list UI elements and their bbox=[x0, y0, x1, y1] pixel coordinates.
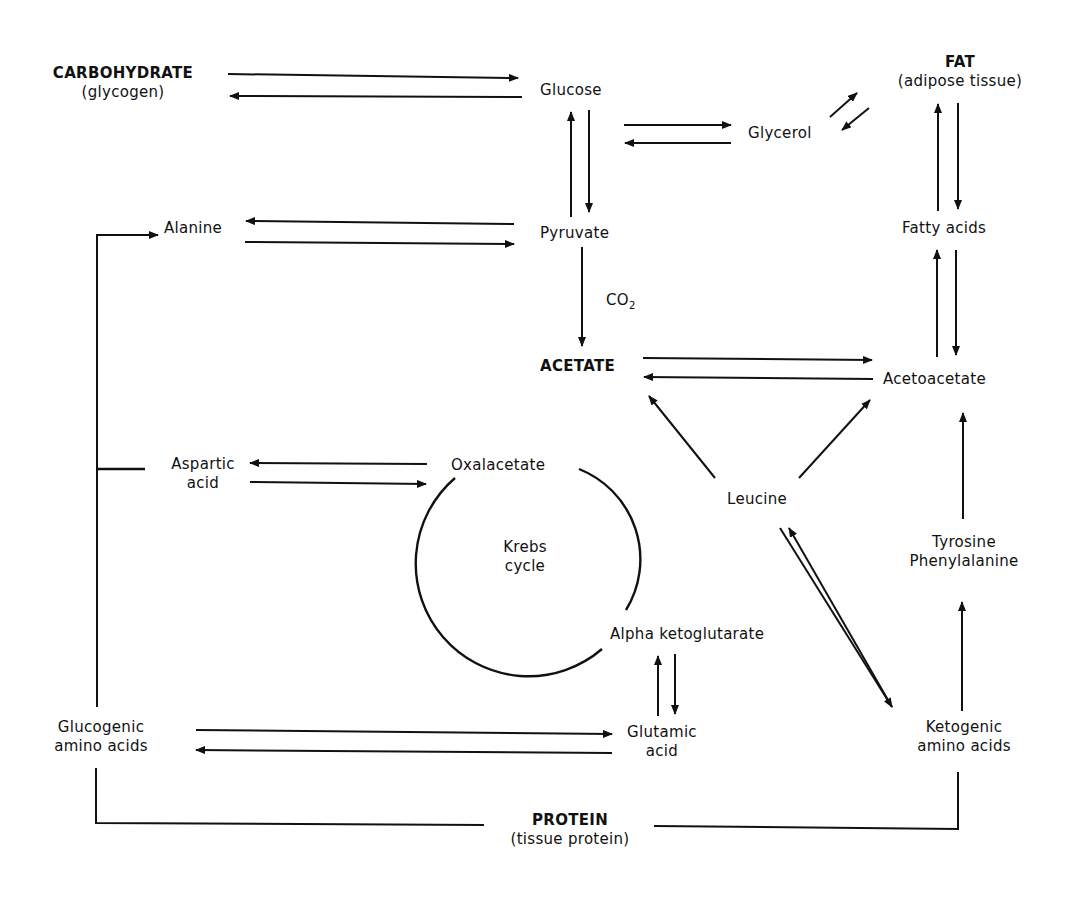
node-fat-subtitle: (adipose tissue) bbox=[880, 72, 1040, 91]
node-leucine: Leucine bbox=[727, 490, 787, 509]
label-co2: CO2 bbox=[606, 291, 636, 315]
node-protein: PROTEIN (tissue protein) bbox=[492, 811, 648, 849]
node-tyrosine-line2: Phenylalanine bbox=[886, 552, 1042, 571]
node-carbohydrate-title: CARBOHYDRATE bbox=[53, 64, 193, 82]
node-glucogenic-line1: Glucogenic bbox=[40, 718, 162, 737]
node-acetoacetate: Acetoacetate bbox=[883, 370, 986, 389]
connector-protein-to-glucogenic bbox=[96, 768, 484, 825]
node-tyrosine-line1: Tyrosine bbox=[886, 533, 1042, 552]
node-alanine: Alanine bbox=[164, 219, 222, 238]
node-tyrosine-phenylalanine: Tyrosine Phenylalanine bbox=[886, 533, 1042, 571]
node-glutamic-acid: Glutamic acid bbox=[622, 723, 702, 761]
node-protein-subtitle: (tissue protein) bbox=[492, 830, 648, 849]
arrow-alanine-to-pyruvate bbox=[245, 242, 514, 244]
arrow-ketogenic-to-leucine bbox=[789, 528, 892, 707]
arrow-carbohydrate-to-glucose bbox=[228, 74, 518, 78]
label-co2-text: CO bbox=[606, 291, 629, 309]
node-carbohydrate: CARBOHYDRATE (glycogen) bbox=[40, 64, 206, 102]
node-ketogenic-line1: Ketogenic bbox=[902, 718, 1026, 737]
arrow-aspartic-to-oxalacetate bbox=[250, 482, 426, 484]
node-acetate: ACETATE bbox=[540, 357, 615, 376]
arrow-glutamic-to-glucogenic bbox=[196, 750, 612, 753]
node-krebs-line2: cycle bbox=[490, 557, 560, 576]
node-aspartic-line1: Aspartic bbox=[158, 455, 248, 474]
node-oxalacetate: Oxalacetate bbox=[451, 456, 545, 475]
node-aspartic-line2: acid bbox=[158, 474, 248, 493]
node-glycerol: Glycerol bbox=[748, 124, 812, 143]
node-glutamic-line1: Glutamic bbox=[622, 723, 702, 742]
node-fatty-acids: Fatty acids bbox=[902, 219, 986, 238]
node-protein-title: PROTEIN bbox=[532, 811, 608, 829]
krebs-cycle-arc-right bbox=[579, 469, 640, 610]
arrow-oxalacetate-to-aspartic bbox=[250, 463, 427, 464]
arrow-glycerol-to-fat bbox=[830, 93, 857, 117]
node-carbohydrate-subtitle: (glycogen) bbox=[40, 83, 206, 102]
connector-glucogenic-to-alanine bbox=[97, 235, 158, 707]
arrow-acetoacetate-to-acetate bbox=[644, 377, 873, 379]
arrow-leucine-to-acetate bbox=[649, 396, 715, 478]
arrow-glucogenic-to-glutamic bbox=[196, 730, 612, 734]
node-glucogenic-amino-acids: Glucogenic amino acids bbox=[40, 718, 162, 756]
node-ketogenic-amino-acids: Ketogenic amino acids bbox=[902, 718, 1026, 756]
label-co2-subscript: 2 bbox=[629, 300, 636, 311]
node-alpha-ketoglutarate: Alpha ketoglutarate bbox=[610, 625, 764, 644]
node-glutamic-line2: acid bbox=[622, 742, 702, 761]
pathway-connectors bbox=[0, 0, 1081, 898]
arrow-fat-to-glycerol bbox=[842, 108, 869, 130]
arrow-leucine-to-acetoacetate bbox=[799, 400, 870, 478]
arrow-leucine-to-ketogenic bbox=[780, 528, 892, 707]
connector-protein-to-ketogenic bbox=[654, 772, 958, 829]
node-fat: FAT (adipose tissue) bbox=[880, 53, 1040, 91]
node-ketogenic-line2: amino acids bbox=[902, 737, 1026, 756]
arrow-pyruvate-to-alanine bbox=[246, 221, 514, 224]
arrow-glucose-to-carbohydrate bbox=[230, 96, 522, 97]
node-aspartic-acid: Aspartic acid bbox=[158, 455, 248, 493]
node-fat-title: FAT bbox=[945, 53, 975, 71]
node-krebs-line1: Krebs bbox=[490, 538, 560, 557]
krebs-cycle-arc-left bbox=[416, 478, 602, 676]
arrow-acetate-to-acetoacetate bbox=[643, 358, 872, 360]
node-pyruvate: Pyruvate bbox=[540, 224, 609, 243]
node-glucogenic-line2: amino acids bbox=[40, 737, 162, 756]
node-krebs-cycle: Krebs cycle bbox=[490, 538, 560, 576]
node-glucose: Glucose bbox=[540, 81, 602, 100]
